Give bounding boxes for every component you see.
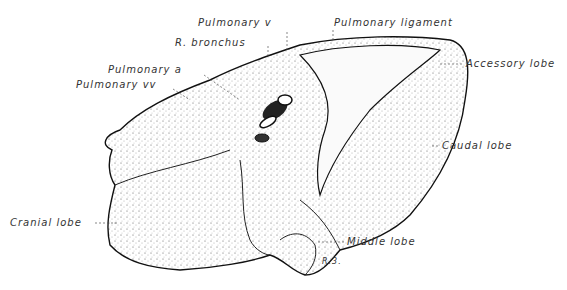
label-caudal-lobe: Caudal lobe (442, 141, 512, 151)
label-pulmonary-a: Pulmonary a (108, 65, 182, 75)
label-cranial-lobe: Cranial lobe (10, 218, 82, 228)
label-r-bronchus: R. bronchus (175, 38, 246, 48)
artist-signature: R.3. (322, 258, 342, 266)
label-pulmonary-vv: Pulmonary vv (76, 80, 157, 90)
label-accessory-lobe: Accessory lobe (466, 59, 555, 69)
lung-illustration: Pulmonary v Pulmonary ligament R. bronch… (0, 0, 567, 290)
label-pulmonary-ligament: Pulmonary ligament (334, 18, 453, 28)
label-middle-lobe: Middle lobe (347, 237, 416, 247)
label-pulmonary-v: Pulmonary v (198, 18, 272, 28)
